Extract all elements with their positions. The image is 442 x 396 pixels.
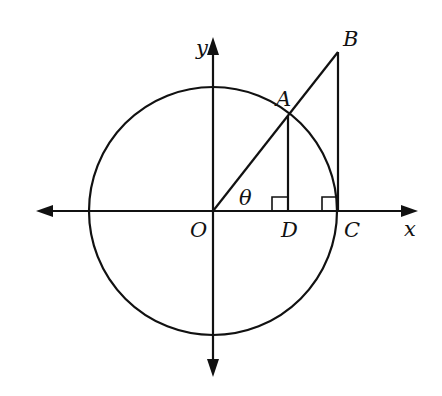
origin-label: O: [190, 218, 207, 242]
unit-circle-diagram: y x O A B C D θ: [0, 0, 442, 396]
x-axis-label: x: [404, 217, 416, 241]
y-axis-up-arrow-icon: [207, 37, 219, 55]
right-angle-mark-d: [272, 197, 288, 211]
x-axis-left-arrow-icon: [36, 205, 53, 217]
y-axis-down-arrow-icon: [207, 359, 219, 377]
y-axis-label: y: [195, 36, 209, 60]
point-b-label: B: [342, 27, 358, 51]
point-d-label: D: [280, 218, 298, 242]
point-a-label: A: [274, 87, 291, 111]
segment-ob: [213, 52, 338, 211]
point-c-label: C: [344, 218, 360, 242]
angle-theta-label: θ: [239, 186, 252, 210]
x-axis-right-arrow-icon: [401, 205, 418, 217]
